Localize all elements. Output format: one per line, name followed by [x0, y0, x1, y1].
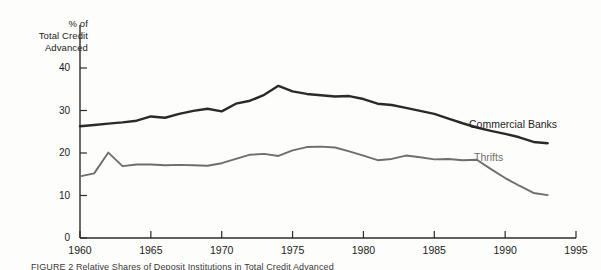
- x-tick-label: 1970: [200, 244, 244, 256]
- x-tick-label: 1975: [271, 244, 315, 256]
- x-tick-label: 1980: [341, 244, 385, 256]
- x-tick-label: 1985: [412, 244, 456, 256]
- y-tick-label: 40: [44, 62, 70, 73]
- data-series-group: [80, 86, 548, 195]
- y-tick-label: 0: [44, 232, 70, 243]
- chart-figure: % of Total Credit Advanced Commercial Ba…: [0, 0, 601, 270]
- x-tick-label: 1965: [129, 244, 173, 256]
- x-tick-label: 1995: [554, 244, 598, 256]
- series-label-thrifts: Thrifts: [474, 151, 503, 163]
- y-tick-label: 10: [44, 190, 70, 201]
- y-axis-ticks: [80, 68, 87, 238]
- x-axis-ticks: [80, 231, 576, 238]
- y-tick-label: 30: [44, 105, 70, 116]
- figure-caption: FIGURE 2 Relative Shares of Deposit Inst…: [31, 262, 571, 270]
- x-tick-label: 1990: [483, 244, 527, 256]
- series-line-commercial-banks: [80, 86, 548, 143]
- y-tick-label: 20: [44, 147, 70, 158]
- chart-axes: [80, 25, 576, 238]
- line-chart-canvas: [0, 0, 601, 270]
- x-tick-label: 1960: [58, 244, 102, 256]
- series-label-commercial-banks: Commercial Banks: [469, 118, 557, 130]
